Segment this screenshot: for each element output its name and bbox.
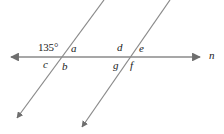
angle-label-c: c [43,59,48,70]
angle-label-d: d [117,42,123,53]
angle-label-135: 135° [38,42,58,53]
diagram-canvas [0,0,224,134]
angle-label-f: f [130,60,133,71]
angle-label-a: a [71,43,77,54]
transversal-left-line [17,0,104,118]
line-label-n: n [209,50,215,61]
transversal-right-line [82,0,170,127]
angle-label-b: b [62,61,68,72]
angle-label-g: g [113,60,119,71]
angle-label-e: e [139,43,144,54]
geometry-diagram: 135° a c b d e g f n [0,0,224,134]
